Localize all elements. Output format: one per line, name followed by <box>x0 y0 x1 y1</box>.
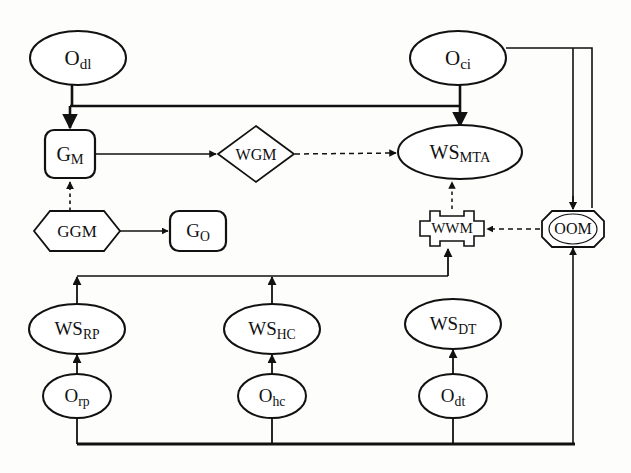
node-go-base: G <box>186 220 200 241</box>
bus-lines <box>70 48 592 444</box>
node-orp-base: O <box>64 385 78 406</box>
node-wsmta[interactable]: WSMTA <box>398 125 522 179</box>
node-wsrp-sub: RP <box>83 327 100 342</box>
node-gm[interactable]: GM <box>45 130 95 178</box>
node-odl[interactable]: Odl <box>30 31 126 85</box>
node-gm-base: G <box>56 143 70 165</box>
node-ggm-label: GGM <box>57 222 97 241</box>
node-wsrp[interactable]: WSRP <box>29 304 125 354</box>
node-gm-sub: M <box>71 151 84 167</box>
node-wwm-label: WWM <box>431 220 473 236</box>
node-wsmta-sub: MTA <box>460 149 491 165</box>
node-wsdt-base: WS <box>430 313 459 334</box>
node-wshc-sub: HC <box>277 327 296 342</box>
node-odt-sub: dt <box>455 394 466 409</box>
node-oom[interactable]: OOM <box>542 211 604 247</box>
edge-wgm-to-wsmta <box>295 153 396 154</box>
node-odt-base: O <box>441 385 455 406</box>
diagram-canvas: Odl Oci GM WGM WSMTA <box>0 0 631 473</box>
node-wsrp-base: WS <box>54 318 83 339</box>
edge-oci-to-oom <box>506 48 592 208</box>
diagram-svg: Odl Oci GM WGM WSMTA <box>0 0 631 473</box>
node-wsmta-base: WS <box>430 141 460 163</box>
node-wgm[interactable]: WGM <box>218 126 294 182</box>
node-oci-sub: ci <box>460 56 471 72</box>
node-odt[interactable]: Odt <box>419 374 487 418</box>
node-odl-base: O <box>65 46 80 70</box>
edge-oci-corner <box>573 190 592 196</box>
node-ggm[interactable]: GGM <box>34 211 120 251</box>
node-ohc-sub: hc <box>272 394 285 409</box>
node-wshc[interactable]: WSHC <box>224 304 320 354</box>
node-oom-label: OOM <box>554 220 591 237</box>
node-wshc-base: WS <box>248 318 277 339</box>
node-orp-sub: rp <box>78 394 90 409</box>
node-go-sub: O <box>200 229 210 244</box>
node-odl-sub: dl <box>80 56 92 72</box>
node-go[interactable]: GO <box>170 211 226 251</box>
node-oci-base: O <box>445 46 460 70</box>
node-wwm[interactable]: WWM <box>420 211 484 246</box>
node-ohc[interactable]: Ohc <box>238 374 306 418</box>
node-oci[interactable]: Oci <box>410 31 506 85</box>
node-wsdt[interactable]: WSDT <box>405 299 501 349</box>
node-wsdt-sub: DT <box>458 322 477 337</box>
node-ohc-base: O <box>259 385 273 406</box>
node-orp[interactable]: Orp <box>43 374 111 418</box>
node-wgm-label: WGM <box>236 146 277 163</box>
